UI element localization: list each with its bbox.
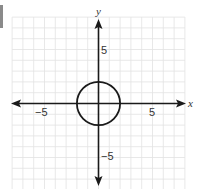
x-tick-label-pos5: 5 [149, 106, 155, 118]
y-axis-label: y [95, 5, 101, 17]
x-tick-label-neg5: −5 [35, 106, 48, 118]
coordinate-plane: y x −5 5 5 −5 [0, 0, 197, 189]
y-tick-label-neg5: −5 [101, 150, 114, 162]
x-axis-label: x [187, 97, 193, 109]
y-tick-label-pos5: 5 [101, 44, 107, 56]
